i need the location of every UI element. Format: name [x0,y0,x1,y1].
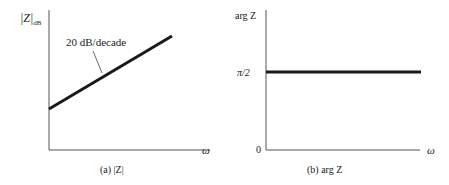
magnitude-y-label: |Z|dB [20,11,42,27]
phase-tick-pi-over-2: π/2 [237,67,250,78]
bode-diagram: |Z|dB 20 dB/decade ω (a) |Z| arg Z π/2 0… [0,0,449,185]
magnitude-caption: (a) |Z| [100,164,124,176]
phase-x-label: ω [427,144,435,156]
panel-phase: arg Z π/2 0 ω (b) arg Z [235,10,435,176]
magnitude-x-label: ω [202,144,210,156]
slope-leader-line [93,51,102,73]
slope-annotation: 20 dB/decade [66,36,126,48]
panel-magnitude: |Z|dB 20 dB/decade ω (a) |Z| [20,10,210,176]
phase-caption: (b) arg Z [307,164,342,176]
phase-tick-zero: 0 [256,144,261,155]
phase-y-label: arg Z [235,10,256,21]
